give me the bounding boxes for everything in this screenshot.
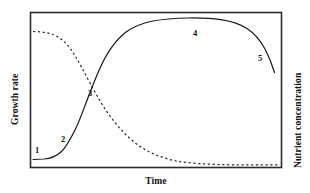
series-nutrient-concentration xyxy=(33,32,279,166)
chart-svg: 1 2 3 4 5 Growth rate Nutrient concentra… xyxy=(0,0,310,193)
y-axis-left-title: Growth rate xyxy=(10,74,20,125)
y-axis-right-title: Nutrient concentration xyxy=(293,72,303,168)
growth-curve-figure: 1 2 3 4 5 Growth rate Nutrient concentra… xyxy=(0,0,310,193)
phase-label-1: 1 xyxy=(35,145,39,155)
series-growth-rate xyxy=(33,18,275,160)
phase-label-4: 4 xyxy=(193,28,198,38)
phase-label-2: 2 xyxy=(61,134,65,144)
phase-label-5: 5 xyxy=(258,53,262,63)
phase-label-3: 3 xyxy=(88,88,92,98)
x-axis-title: Time xyxy=(145,176,166,186)
plot-frame xyxy=(31,13,282,168)
